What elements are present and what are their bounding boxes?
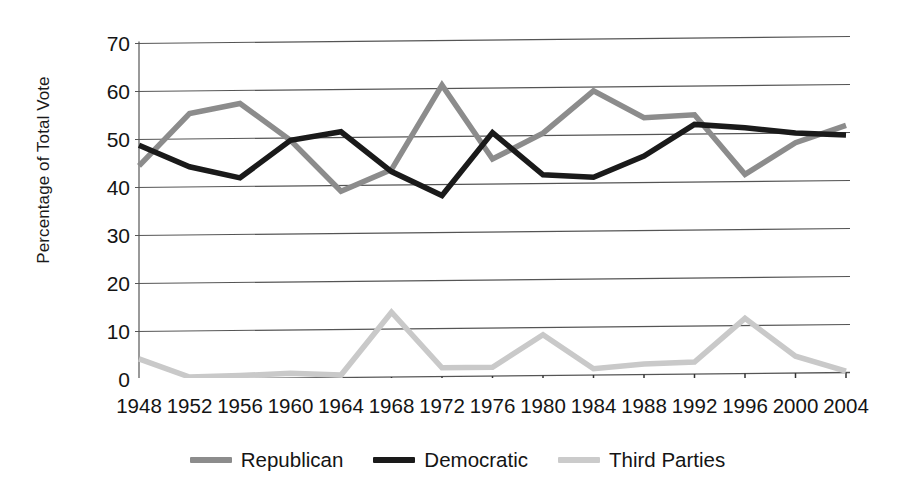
x-tick-label: 1968 [369, 396, 415, 417]
y-tick-label: 40 [70, 177, 130, 198]
x-tick-label: 1952 [167, 396, 213, 417]
x-tick-label: 1972 [419, 396, 465, 417]
y-axis-title: Percentage of Total Vote [34, 40, 54, 300]
x-tick-label: 1960 [268, 396, 314, 417]
chart-lines-svg [135, 28, 850, 378]
gridline [135, 277, 850, 284]
legend-label: Democratic [424, 450, 528, 471]
legend-label: Third Parties [609, 450, 725, 471]
y-tick-label: 60 [70, 81, 130, 102]
series-line-third-parties [139, 312, 846, 377]
x-tick-label: 1988 [621, 396, 667, 417]
y-tick-label: 30 [70, 225, 130, 246]
gridline [135, 37, 850, 44]
x-tick-label: 1996 [722, 396, 768, 417]
y-tick-label: 50 [70, 129, 130, 150]
x-tick-label: 1956 [217, 396, 263, 417]
gridline [135, 229, 850, 236]
x-tick-label: 1984 [571, 396, 617, 417]
legend-item[interactable]: Republican [190, 450, 344, 471]
gridlines [135, 37, 850, 379]
legend-item[interactable]: Third Parties [558, 450, 725, 471]
x-tick-label: 1976 [470, 396, 516, 417]
y-tick-label: 70 [70, 33, 130, 54]
legend-item[interactable]: Democratic [373, 450, 528, 471]
y-tick-label: 10 [70, 321, 130, 342]
y-tick-label: 20 [70, 273, 130, 294]
x-tick-label: 1948 [116, 396, 162, 417]
x-tick-label: 2000 [773, 396, 819, 417]
legend-label: Republican [241, 450, 344, 471]
gridline [135, 181, 850, 188]
chart-legend: RepublicanDemocraticThird Parties [0, 443, 915, 477]
legend-swatch-icon [190, 457, 232, 463]
gridline [135, 85, 850, 92]
y-tick-label: 0 [70, 369, 130, 390]
x-axis-tick-labels: 1948195219561960196419681972197619801984… [0, 396, 915, 426]
legend-swatch-icon [373, 457, 415, 463]
x-tick-label: 1992 [672, 396, 718, 417]
x-tick-label: 1980 [520, 396, 566, 417]
plot-area [135, 28, 850, 378]
legend-swatch-icon [558, 457, 600, 463]
x-tick-label: 1964 [318, 396, 364, 417]
data-series-lines [139, 85, 846, 377]
gridline [135, 325, 850, 332]
x-tick-label: 2004 [823, 396, 869, 417]
chart-figure: Percentage of Total Vote 010203040506070… [0, 0, 915, 493]
